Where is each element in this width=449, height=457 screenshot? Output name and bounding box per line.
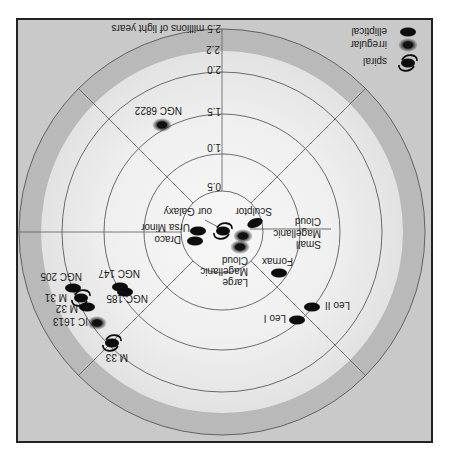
tick-2-0: 2.0 [207, 64, 221, 75]
leo-i-elliptical-icon [289, 316, 305, 325]
lmc-irregular-icon [230, 240, 250, 254]
irregular-icon [398, 38, 418, 52]
tick-0-5: 0.5 [207, 181, 221, 192]
label-leo-i: Leo I [264, 313, 286, 324]
label-ngc6822: NGC 6822 [134, 105, 182, 116]
label-fornax: Fornax [262, 256, 293, 267]
ursa-minor-elliptical-icon [190, 227, 206, 236]
label-leo-ii: Leo II [325, 300, 350, 311]
leo-ii-elliptical-icon [304, 303, 320, 312]
label-lmc-line2: Magellanic [200, 266, 248, 277]
tick-1-0: 1.0 [207, 142, 221, 153]
draco-elliptical-icon [187, 237, 203, 246]
legend-irregular: irregular [350, 39, 387, 50]
label-ngc205: NGC 205 [40, 271, 82, 282]
tick-1-5: 1.5 [207, 106, 221, 117]
m32-elliptical-icon [79, 303, 95, 312]
axis-unit-label: 2.5 millions of light years [112, 23, 222, 34]
label-ngc185: NGC 185 [106, 293, 148, 304]
label-ngc147: NGC 147 [98, 268, 140, 279]
label-lmc-line1: Large [222, 277, 248, 288]
label-sculptor: Sculptor [235, 206, 272, 217]
legend-spiral: spiral [363, 56, 387, 67]
fornax-elliptical-icon [271, 269, 287, 278]
label-smc-line3: Cloud [295, 216, 321, 227]
elliptical-icon [400, 28, 416, 37]
label-draco: Draco [154, 234, 181, 245]
label-smc-line1: Small [296, 239, 321, 250]
ic1613-irregular-icon [87, 316, 107, 330]
label-m33: M 33 [105, 352, 128, 363]
label-m32: M 32 [55, 303, 78, 314]
ngc6822-irregular-icon [152, 118, 172, 132]
label-m31: M 31 [44, 292, 67, 303]
label-smc-line2: Magellanic [273, 228, 321, 239]
label-lmc-line3: Cloud [222, 255, 248, 266]
label-ic1613: IC 1613 [53, 316, 88, 327]
tick-2-2: 2.2 [206, 44, 220, 55]
label-our-galaxy: our Galaxy [164, 206, 212, 217]
local-group-diagram: 2.5 millions of light years 2.2 2.0 1.5 … [0, 0, 449, 457]
legend-elliptical: elliptical [351, 26, 387, 37]
label-ursa-minor: Ursa Minor [140, 222, 190, 233]
